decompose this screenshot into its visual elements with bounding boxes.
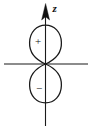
p-orbital-diagram: + − z	[0, 0, 91, 129]
z-axis-label: z	[52, 2, 58, 14]
orbital-diagram-canvas: + − z	[0, 0, 91, 129]
upper-lobe-sign-plus: +	[35, 35, 41, 47]
lower-lobe-sign-minus: −	[36, 82, 42, 94]
